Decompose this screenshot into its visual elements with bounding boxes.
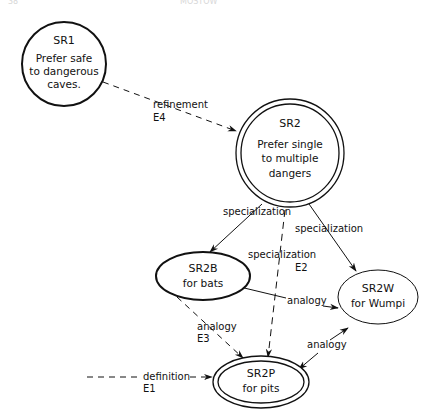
node-sr2: SR2 Prefer single to multiple dangers bbox=[236, 99, 344, 207]
page-number: 38 bbox=[8, 0, 18, 6]
node-id: SR2P bbox=[247, 367, 276, 380]
node-id: SR2W bbox=[362, 282, 395, 295]
node-sr1: SR1 Prefer safe to dangerous caves. bbox=[22, 22, 106, 106]
node-line: Prefer single bbox=[257, 138, 323, 150]
node-line: Prefer safe bbox=[36, 52, 93, 64]
edge-label: specialization bbox=[248, 249, 316, 260]
node-id: SR2 bbox=[279, 117, 301, 130]
node-id: SR1 bbox=[53, 34, 75, 47]
edge-label: specialization bbox=[295, 223, 363, 234]
edge-analogy-sr2p-sr2w: analogy bbox=[299, 328, 348, 369]
node-id: SR2B bbox=[188, 262, 217, 275]
edge-label: analogy bbox=[197, 321, 237, 332]
edge-label: analogy bbox=[307, 339, 347, 350]
node-sr2p: SR2P for pits bbox=[213, 356, 309, 408]
node-line: to multiple bbox=[262, 152, 319, 164]
node-sr2w: SR2W for Wumpi bbox=[338, 270, 418, 324]
edge-analogy-sr2b-sr2p: analogy E3 bbox=[177, 297, 243, 358]
edge-event: E3 bbox=[197, 333, 210, 344]
node-line: for pits bbox=[243, 382, 280, 394]
running-header: MOSTOW bbox=[180, 0, 217, 6]
edge-event: E2 bbox=[295, 262, 308, 273]
node-line: to dangerous bbox=[29, 65, 98, 77]
node-sr2b: SR2B for bats bbox=[156, 252, 250, 300]
node-line: caves. bbox=[47, 78, 81, 90]
edge-label: refinement bbox=[153, 99, 208, 110]
edge-specialization-sr2-sr2w: specialization bbox=[295, 204, 363, 271]
edge-definition-sr2p: definition E1 bbox=[87, 371, 212, 394]
edge-refinement-sr1-sr2: refinement E4 bbox=[103, 82, 236, 131]
edge-label: analogy bbox=[287, 295, 327, 306]
concept-graph: 38 MOSTOW refinement E4 specialization s… bbox=[0, 0, 422, 415]
edge-label: specialization bbox=[223, 206, 291, 217]
node-line: for Wumpi bbox=[351, 297, 405, 309]
node-line: for bats bbox=[183, 277, 223, 289]
edge-event: E4 bbox=[153, 112, 166, 123]
edge-specialization-sr2-sr2b: specialization bbox=[210, 204, 291, 252]
edge-label: definition bbox=[143, 371, 190, 382]
edge-event: E1 bbox=[143, 383, 156, 394]
node-line: dangers bbox=[269, 167, 312, 179]
